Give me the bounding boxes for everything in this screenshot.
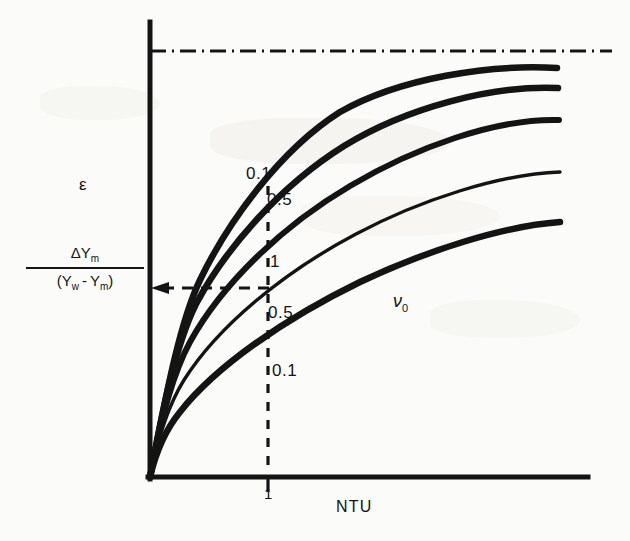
numerator-subscript: m [91, 253, 99, 264]
fraction-denominator: (Yw-Ym) [26, 271, 144, 293]
paren-close: ) [108, 272, 113, 289]
parameter-symbol-nu-zero: ν0 [393, 292, 408, 314]
minus-glyph: - [79, 272, 90, 289]
figure-page: 0.1 0.5 1 0.5 0.1 ν0 ε ΔYm (Yw-Ym) 1 NTU [0, 0, 630, 541]
nu-glyph: ν [393, 291, 402, 311]
curve-1 [150, 120, 559, 477]
curve-label-0-5-lower: 0.5 [268, 304, 293, 321]
numerator-var: Y [81, 244, 91, 261]
x-axis-label: NTU [336, 499, 372, 515]
curve-0-5-lower [150, 172, 560, 477]
curve-label-0-5-upper: 0.5 [267, 191, 292, 208]
curve-label-0-1-upper: 0.1 [246, 165, 271, 182]
fraction-numerator: ΔYm [26, 244, 144, 266]
x-axis-tick-label-1: 1 [264, 486, 272, 501]
ordinate-arrowhead [151, 282, 169, 294]
denominator-var1: Y [62, 272, 72, 289]
curve-label-0-1-lower: 0.1 [272, 362, 297, 379]
denominator-subscript1: w [72, 281, 79, 292]
curve-label-1: 1 [270, 253, 280, 270]
y-axis-fraction-label: ΔYm (Yw-Ym) [26, 244, 144, 292]
denominator-var2: Y [90, 272, 100, 289]
fraction-bar [26, 267, 144, 269]
delta-glyph: Δ [71, 244, 81, 261]
nu-subscript: 0 [402, 302, 408, 314]
y-axis-symbol-epsilon: ε [79, 176, 87, 193]
